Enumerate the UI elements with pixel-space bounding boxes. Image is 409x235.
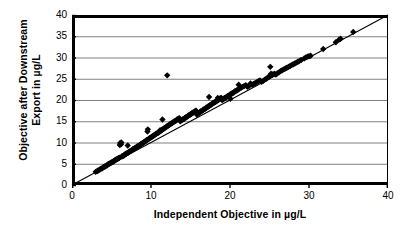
y-tick-label: 15 [45, 116, 67, 126]
y-axis-title-line1: Objective after Downstream [17, 19, 31, 160]
x-tick-label: 10 [136, 191, 166, 201]
plot-canvas [72, 15, 388, 185]
y-tick-label: 20 [45, 95, 67, 105]
y-tick-label: 10 [45, 138, 67, 148]
y-tick-label: 35 [45, 31, 67, 41]
y-tick-label: 25 [45, 74, 67, 84]
y-tick-label: 40 [45, 10, 67, 20]
x-tick-label: 20 [215, 191, 245, 201]
x-axis-title: Independent Objective in µg/L [72, 208, 388, 220]
y-tick-label: 30 [45, 53, 67, 63]
x-tick-label: 40 [373, 191, 403, 201]
y-axis-title-line2: Export in µg/L [30, 54, 44, 126]
scatter-chart: Objective after Downstream Export in µg/… [0, 0, 409, 235]
x-tick-label: 30 [294, 191, 324, 201]
x-tick-label: 0 [57, 191, 87, 201]
data-point [267, 64, 273, 70]
data-point [206, 94, 212, 100]
plot-area [72, 15, 388, 185]
data-point [164, 72, 170, 78]
data-point-series [93, 29, 357, 175]
data-point [350, 29, 356, 35]
y-tick-label: 0 [45, 180, 67, 190]
y-tick-label: 5 [45, 159, 67, 169]
